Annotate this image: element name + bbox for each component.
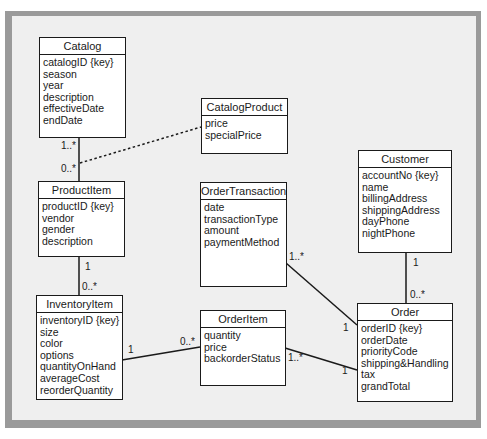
multiplicity-orderitem-order-end: 1..* — [288, 352, 303, 363]
attribute: grandTotal — [361, 381, 452, 393]
class-product-item[interactable]: ProductItem productID {key} vendor gende… — [38, 181, 125, 257]
class-name: OrderTransaction — [201, 183, 286, 200]
attribute: averageCost — [40, 373, 122, 385]
attribute-list: inventoryID {key} size color options qua… — [37, 313, 122, 396]
multiplicity-order-cust-end: 0..* — [410, 289, 425, 300]
class-order-item[interactable]: OrderItem quantity price backorderStatus — [200, 310, 286, 386]
multiplicity-ordertransaction-end: 1..* — [289, 251, 304, 262]
class-order[interactable]: Order orderID {key} orderDate priorityCo… — [357, 303, 453, 402]
attribute: inventoryID {key} — [40, 315, 122, 327]
attribute-list: accountNo {key} name billingAddress ship… — [359, 168, 451, 240]
attribute: catalogID {key} — [43, 57, 125, 69]
attribute: date — [204, 202, 286, 214]
attribute: backorderStatus — [204, 353, 285, 365]
class-name: Customer — [359, 151, 451, 168]
attribute-list: price specialPrice — [202, 116, 287, 141]
attribute: quantity — [204, 330, 285, 342]
attribute: paymentMethod — [204, 237, 286, 249]
attribute: endDate — [43, 115, 125, 127]
attribute: description — [42, 236, 124, 248]
attribute: productID {key} — [42, 201, 124, 213]
class-customer[interactable]: Customer accountNo {key} name billingAdd… — [358, 150, 452, 253]
class-inventory-item[interactable]: InventoryItem inventoryID {key} size col… — [36, 295, 123, 400]
class-name: Order — [358, 304, 452, 321]
multiplicity-customer-end: 1 — [413, 257, 419, 268]
attribute-list: catalogID {key} season year description … — [40, 55, 125, 127]
attribute: specialPrice — [205, 130, 287, 142]
attribute: price — [205, 118, 287, 130]
attribute: nightPhone — [362, 228, 451, 240]
class-name: OrderItem — [201, 311, 285, 328]
multiplicity-order-ot-end: 1 — [343, 322, 349, 333]
class-catalog-product[interactable]: CatalogProduct price specialPrice — [201, 98, 288, 154]
multiplicity-orderitem-inv-end: 0..* — [180, 336, 195, 347]
multiplicity-catalog-end: 1..* — [61, 140, 76, 151]
attribute: reorderQuantity — [40, 385, 122, 397]
class-name: InventoryItem — [37, 296, 122, 313]
multiplicity-inventoryitem-oi-end: 1 — [128, 344, 134, 355]
multiplicity-order-oi-end: 1 — [342, 365, 348, 376]
attribute-list: orderID {key} orderDate priorityCode shi… — [358, 321, 452, 393]
class-order-transaction[interactable]: OrderTransaction date transactionType am… — [200, 182, 287, 287]
association-ordertransaction-order — [286, 263, 357, 325]
multiplicity-productitem-end: 0..* — [61, 163, 76, 174]
class-catalog[interactable]: Catalog catalogID {key} season year desc… — [39, 37, 126, 138]
attribute-list: quantity price backorderStatus — [201, 328, 285, 365]
multiplicity-inventoryitem-end: 0..* — [82, 281, 97, 292]
attribute: orderID {key} — [361, 323, 452, 335]
attribute-list: productID {key} vendor gender descriptio… — [39, 199, 124, 247]
class-name: Catalog — [40, 38, 125, 55]
class-name: ProductItem — [39, 182, 124, 199]
class-name: CatalogProduct — [202, 99, 287, 116]
multiplicity-productitem-inv-end: 1 — [85, 261, 91, 272]
attribute: accountNo {key} — [362, 170, 451, 182]
attribute-list: date transactionType amount paymentMetho… — [201, 200, 286, 248]
